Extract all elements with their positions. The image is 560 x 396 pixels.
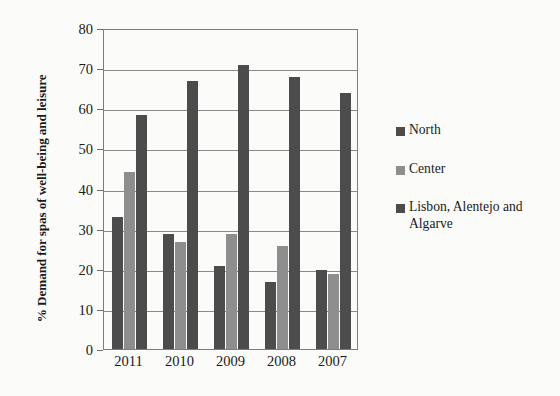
bar-group	[155, 30, 206, 349]
bar	[175, 242, 186, 349]
bar	[124, 172, 135, 349]
legend-item-label: Lisbon, Alentejo and Algarve	[409, 199, 539, 232]
legend-item-label: North	[409, 122, 441, 139]
bar-group	[104, 30, 155, 349]
bar	[316, 270, 327, 349]
bar	[289, 77, 300, 349]
legend: NorthCenterLisbon, Alentejo and Algarve	[396, 122, 556, 254]
x-axis-tick-label: 2008	[267, 353, 296, 370]
y-axis-tick-label: 50	[51, 141, 103, 158]
x-axis-tick-labels: 20112010200920082007	[103, 353, 358, 381]
y-axis-tick-label: 40	[51, 181, 103, 198]
legend-item[interactable]: Center	[396, 161, 556, 178]
x-axis-tick-label: 2007	[318, 353, 347, 370]
bar	[226, 234, 237, 349]
y-axis-tick-mark	[97, 350, 103, 351]
y-axis-tick-label: 20	[51, 261, 103, 278]
x-axis-tick-label: 2011	[114, 353, 142, 370]
bar	[328, 274, 339, 349]
bar	[187, 81, 198, 349]
bar	[112, 217, 123, 349]
bar-group	[206, 30, 257, 349]
legend-swatch-icon	[396, 204, 405, 213]
bar	[214, 266, 225, 349]
plot-area	[103, 29, 358, 350]
y-axis-tick-labels: 01020304050607080	[0, 0, 103, 396]
legend-swatch-icon	[396, 166, 405, 175]
bar	[340, 93, 351, 349]
bar	[265, 282, 276, 349]
bar-series-container	[104, 30, 357, 349]
bar	[136, 115, 147, 349]
y-axis-tick-label: 60	[51, 101, 103, 118]
y-axis-tick-label: 70	[51, 61, 103, 78]
bar-chart: % Demand for spas of well-being and leis…	[0, 0, 560, 396]
y-axis-tick-label: 80	[51, 21, 103, 38]
legend-swatch-icon	[396, 127, 405, 136]
legend-item[interactable]: North	[396, 122, 556, 139]
bar-group	[257, 30, 308, 349]
legend-item-label: Center	[409, 161, 445, 178]
bar-group	[308, 30, 359, 349]
bar	[238, 65, 249, 349]
bar	[163, 234, 174, 349]
bar	[277, 246, 288, 349]
y-axis-tick-label: 0	[51, 342, 103, 359]
legend-item[interactable]: Lisbon, Alentejo and Algarve	[396, 199, 556, 232]
x-axis-tick-label: 2010	[165, 353, 194, 370]
y-axis-tick-label: 30	[51, 221, 103, 238]
y-axis-tick-label: 10	[51, 301, 103, 318]
x-axis-tick-label: 2009	[216, 353, 245, 370]
